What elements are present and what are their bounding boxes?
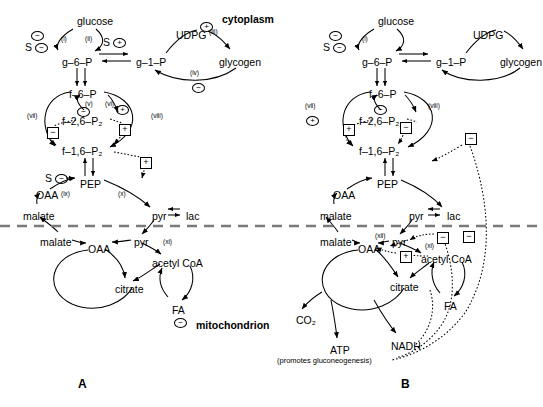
- panelA-metabolite-f-6-P: f–6–P: [69, 89, 96, 100]
- panelA-metabolite-malate-mit: malate: [40, 237, 72, 248]
- panelA-metabolite-g-1-P: g–1–P: [136, 57, 166, 68]
- panelB-step-viii: (viii): [428, 103, 440, 110]
- panelA-mod-minus-glycogen: −: [192, 83, 205, 93]
- panelA-metabolite-f-2,6-P2: f–2,6–P₂: [62, 116, 102, 127]
- panelA-mod-minus-FA: −: [174, 318, 187, 328]
- panelA-metabolite-g-6-P: g–6–P: [62, 57, 92, 68]
- panelA-mod-plus-udpg: +: [200, 22, 213, 32]
- panelB-mod-box-minus-mit2: −: [463, 231, 475, 243]
- panelA-metabolite-malate-cyt: malate: [23, 211, 55, 222]
- panelA-mod-box-plus-f16: +: [140, 157, 152, 169]
- panelA-mod-box-plus-right: +: [119, 124, 131, 136]
- panelB-metabolite-malate-mit: malate: [320, 237, 352, 248]
- panelA-mod-box-minus-left: −: [47, 127, 59, 139]
- panelB-mod-plus-vii: +: [306, 116, 319, 126]
- panelB-metabolite-g-1-P: g–1–P: [436, 57, 466, 68]
- panelA-metabolite-FA: FA: [172, 305, 185, 316]
- panelB-mod-box-plus-left: +: [343, 124, 355, 136]
- panelB-mod-box-minus-mit1: −: [437, 232, 449, 244]
- panelB-metabolite-ATP: ATP: [330, 345, 350, 356]
- panelB-mod-box-minus-right: −: [400, 122, 412, 134]
- panelB-metabolite-f-2,6-P2: f–2,6–P₂: [359, 116, 399, 127]
- panelB-metabolite-OAA-mit: OAA: [358, 244, 380, 255]
- panelB-mod-S-minus-glucose-prefix: S: [323, 42, 330, 53]
- panelA-mod-S-plus-g6p-prefix: S: [103, 37, 110, 48]
- panelB-step-xi: (xi): [425, 243, 434, 250]
- panel-label-B: B: [401, 378, 410, 390]
- panelB-metabolite-f-1,6-P2: f–1,6–P₂: [359, 146, 399, 157]
- panelB-mod-minus-glucose: −: [329, 31, 342, 41]
- panelB-metabolite-NADH: NADH: [391, 341, 421, 352]
- panelB-step-vii: (vii): [305, 103, 315, 110]
- panelB-atp-note: (promotes gluconeogenesis): [277, 357, 372, 365]
- panelA-metabolite-UDPG: UDPG: [176, 30, 206, 41]
- panelA-mod-S-minus-glucose-prefix: S: [25, 42, 32, 53]
- panelA-metabolite-lac: lac: [186, 211, 199, 222]
- panelB-mod-box-minus-far: −: [465, 133, 477, 145]
- panelA-step-viii: (viii): [151, 113, 163, 120]
- panelA-mod-minus-f26: −: [77, 107, 90, 117]
- panelA-step-xi: (xi): [163, 239, 172, 246]
- panelA-step-vi: (vi): [105, 101, 114, 108]
- panelA-step-i: (i): [61, 36, 67, 43]
- panelB-mod-S-minus-glucose: −: [333, 43, 346, 53]
- panelB-metabolite-f-6-P: f–6–P: [369, 89, 396, 100]
- panelB-mod-box-plus-mit: +: [400, 251, 412, 263]
- panelB-metabolite-pyr-cyt: pyr: [409, 211, 424, 222]
- panelB-metabolite-g-6-P: g–6–P: [362, 57, 392, 68]
- panelA-mod-S-minus-pep: −: [55, 174, 68, 184]
- panelB-step-xii: (xii): [375, 233, 385, 240]
- panelB-metabolite-CO2: CO₂: [296, 315, 316, 326]
- panelB-metabolite-malate-cyt: malate: [320, 211, 352, 222]
- panelA-step-vii: (vii): [27, 113, 37, 120]
- panelA-metabolite-pyr-mit: pyr: [134, 237, 149, 248]
- panelB-metabolite-FA: FA: [444, 301, 457, 312]
- panelA-metabolite-OAA-mit: OAA: [88, 244, 110, 255]
- panelB-metabolite-OAA-cyt: OAA: [333, 190, 355, 201]
- panel-label-A: A: [78, 378, 87, 390]
- panelB-metabolite-citrate: citrate: [390, 282, 419, 293]
- panelB-metabolite-pyr-mit: pyr: [392, 237, 407, 248]
- panelA-metabolite-pyr-cyt: pyr: [152, 211, 167, 222]
- panelA-mod-S-minus-pep-prefix: S: [45, 173, 52, 184]
- panelA-metabolite-citrate: citrate: [115, 284, 144, 295]
- compartment-label-mitochondrion: mitochondrion: [196, 320, 270, 331]
- panelA-metabolite-PEP: PEP: [80, 179, 101, 190]
- panelA-mod-S-minus-glucose: −: [35, 43, 48, 53]
- panelA-mod-minus-glucose: −: [31, 31, 44, 41]
- panelA-mod-plus-f26: +: [116, 105, 129, 115]
- panelA-metabolite-glycogen: glycogen: [219, 57, 261, 68]
- panelA-metabolite-f-1,6-P2: f–1,6–P₂: [62, 146, 102, 157]
- panelA-step-ii: (ii): [85, 36, 92, 43]
- panelA-step-ix: (ix): [61, 191, 70, 198]
- panelA-metabolite-acetyl-CoA: acetyl CoA: [152, 258, 203, 269]
- panelA-metabolite-glucose: glucose: [77, 16, 113, 27]
- panelA-step-x: (x): [118, 191, 126, 198]
- panelA-mod-S-plus-g6p: +: [113, 38, 126, 48]
- panelB-metabolite-lac: lac: [447, 211, 460, 222]
- compartment-label-cytoplasm: cytoplasm: [222, 14, 274, 25]
- panelB-metabolite-glycogen: glycogen: [500, 57, 542, 68]
- panelA-step-iv: (iv): [190, 70, 199, 77]
- panelB-metabolite-acetyl-CoA: acetyl CoA: [421, 254, 472, 265]
- figure-canvas: glucoseg–6–Pg–1–PUDPGglycogenf–6–Pf–2,6–…: [0, 0, 543, 407]
- panelB-metabolite-glucose: glucose: [378, 16, 414, 27]
- panelB-metabolite-UDPG: UDPG: [473, 30, 503, 41]
- panelB-step-i: (i): [362, 36, 368, 43]
- panelB-mod-minus-f26: −: [374, 105, 387, 115]
- panelA-metabolite-OAA-cyt: OAA: [36, 190, 58, 201]
- panelB-metabolite-PEP: PEP: [377, 179, 398, 190]
